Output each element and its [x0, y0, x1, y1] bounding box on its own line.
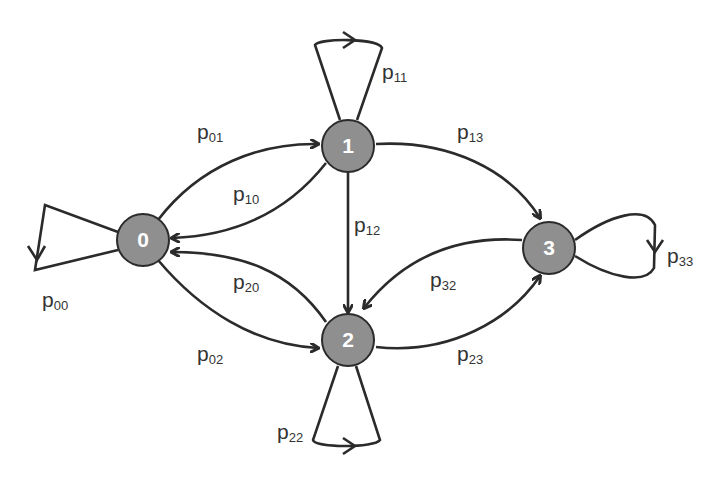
state-label-0: 0	[117, 214, 169, 266]
edge-label-p22: p22	[277, 420, 303, 445]
edge-label-p02: p02	[197, 342, 223, 367]
edge-label-p33: p33	[667, 244, 693, 269]
edge-p11	[315, 40, 382, 120]
edge-label-p10: p10	[233, 182, 259, 207]
diagram-graphics	[0, 0, 717, 478]
edge-p13	[376, 144, 540, 218]
edge-label-p20: p20	[233, 270, 259, 295]
edge-p23	[376, 276, 540, 348]
state-label-1: 1	[322, 120, 374, 172]
edge-label-p12: p12	[354, 213, 380, 238]
edge-label-p01: p01	[197, 120, 223, 145]
state-label-2: 2	[322, 314, 374, 366]
edge-label-p11: p11	[382, 60, 407, 85]
edge-label-p32: p32	[430, 268, 456, 293]
edge-label-p00: p00	[42, 288, 68, 313]
edge-p00	[35, 205, 118, 270]
state-label-3: 3	[523, 222, 575, 274]
edge-label-p13: p13	[457, 120, 483, 145]
edge-p33	[575, 214, 655, 277]
edge-label-p23: p23	[457, 342, 483, 367]
markov-chain-diagram: 0 1 2 3 p00 p01 p10 p11 p13 p12 p02 p20 …	[0, 0, 717, 478]
edge-p22	[313, 366, 380, 446]
